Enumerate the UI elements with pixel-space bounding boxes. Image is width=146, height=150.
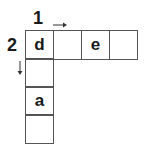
- clue-number-1: 1: [33, 9, 43, 27]
- down-arrow-icon: [16, 60, 24, 76]
- grid-cell-1-1[interactable]: d: [25, 30, 54, 60]
- grid-cell-4-1[interactable]: [25, 114, 54, 144]
- grid-cell-1-3[interactable]: e: [81, 30, 110, 60]
- right-arrow-icon: [52, 21, 68, 29]
- grid-cell-1-2[interactable]: [53, 30, 82, 60]
- grid-cell-2-1[interactable]: [25, 58, 54, 88]
- grid-cell-3-1[interactable]: a: [25, 86, 54, 116]
- clue-number-2: 2: [7, 36, 17, 54]
- grid-cell-1-4[interactable]: [109, 30, 138, 60]
